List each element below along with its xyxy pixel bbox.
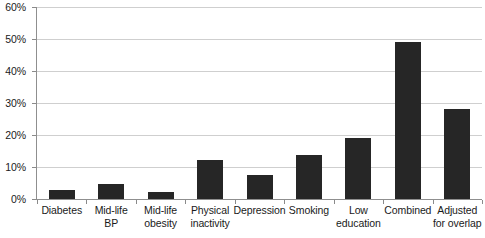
y-axis-tick-label: 10% (5, 162, 26, 173)
x-axis-category-label-line: Smoking (281, 204, 336, 217)
y-axis-tick-label: 30% (5, 98, 26, 109)
x-axis-category-label: Smoking (281, 204, 336, 217)
x-axis-category-label: Diabetes (34, 204, 89, 217)
y-axis-tick-label: 60% (5, 2, 26, 13)
x-axis-categories: DiabetesMid-lifeBPMid-lifeobesityPhysica… (37, 200, 482, 238)
bar (444, 109, 470, 199)
bar (197, 160, 223, 199)
bar (49, 190, 75, 199)
bar (98, 184, 124, 199)
y-axis-tick-label: 0% (11, 194, 26, 205)
x-axis-category-label-line: Low (331, 204, 386, 217)
bar (345, 138, 371, 199)
x-axis-category-label-line: Mid-life (133, 204, 188, 217)
x-axis-category-label-line: Physical (182, 204, 237, 217)
x-axis-category-label: Combined (380, 204, 435, 217)
bar (148, 192, 174, 199)
x-axis-category-label: Loweducation (331, 204, 386, 229)
bars-group (37, 7, 482, 199)
x-axis-category-label-line: Depression (232, 204, 287, 217)
bar (247, 175, 273, 199)
x-axis-category-label-line: Diabetes (34, 204, 89, 217)
x-axis-category-label-line: Adjusted (430, 204, 485, 217)
x-axis-category-label: Adjustedfor overlap (430, 204, 485, 229)
x-axis-category-label: Physicalinactivity (182, 204, 237, 229)
x-axis-category-label-line: education (331, 217, 386, 230)
bar (296, 155, 322, 199)
y-axis: 0%10%20%30%40%50%60% (0, 0, 32, 238)
x-axis-category-label-line: inactivity (182, 217, 237, 230)
x-axis-category-label: Mid-lifeobesity (133, 204, 188, 229)
x-axis-category-label: Depression (232, 204, 287, 217)
x-axis-category-label-line: obesity (133, 217, 188, 230)
y-axis-tick-label: 50% (5, 34, 26, 45)
y-axis-tick-label: 20% (5, 130, 26, 141)
x-axis-category-label: Mid-lifeBP (83, 204, 138, 229)
x-axis-category-label-line: Mid-life (83, 204, 138, 217)
x-axis-category-label-line: for overlap (430, 217, 485, 230)
y-axis-tick-label: 40% (5, 66, 26, 77)
x-axis-category-label-line: Combined (380, 204, 435, 217)
bar (395, 42, 421, 199)
x-axis-category-label-line: BP (83, 217, 138, 230)
